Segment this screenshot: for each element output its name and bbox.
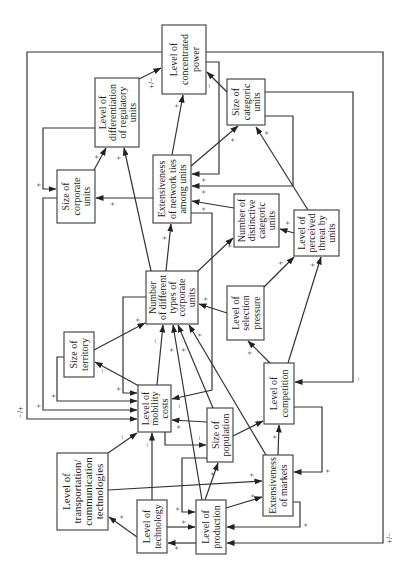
node-label-line: units [266,211,277,231]
node-territory: Size of territory [64,332,94,377]
arrow-line [294,407,322,472]
arrow-line [197,238,233,272]
node-label-line: costs [159,398,170,418]
edge-number-diff-types-to-mobility-costs: + [114,297,147,393]
node-label-line: population [220,414,231,457]
edge-sign: + [276,260,285,265]
node-label-line: Level of [230,296,241,330]
arrow-line [191,126,238,166]
node-label-line: production [211,505,222,548]
arrow-line [192,116,293,186]
node-categoric-units: Size of categoric units [227,79,265,125]
edge-sign: + [108,201,117,206]
node-label-line: pressure [251,296,262,330]
edge-sign: + [301,522,310,527]
node-label-line: of markets [278,464,289,507]
edge-sign: − [151,338,160,343]
arrow-line [139,68,161,79]
node-label-line: units [127,103,138,123]
arrow-line [288,257,321,363]
node-number-diff-types: Number of different types of corporate u… [146,271,198,324]
causal-diagram: −/+ +/− + + + + + − [0,0,406,577]
edge-technology-to-mobility-costs: − [143,433,153,500]
edge-sign: + [172,103,181,108]
edge-network-ties-to-categoric-units: + [191,126,238,166]
node-label-line: Level of [141,509,152,543]
edge-sign: + [248,493,257,498]
edge-sign: + [308,262,317,267]
edge-sign: + [201,296,210,301]
edge-sign: + [160,235,169,240]
node-distinctive-categoric: Number of distinctive categoric units [234,194,279,247]
node-selection-pressure: Level of selection pressure [227,286,264,340]
edge-sign: + [114,386,123,391]
edge-mobility-costs-to-population: − [165,432,206,445]
node-population: Size of population [207,408,233,462]
node-label-line: Level of [168,42,179,76]
edge-mobility-costs-to-territory: − [95,362,139,386]
node-network-ties: Extensiveness of network ties among unit… [153,155,191,223]
edge-territory-to-number-diff-types: + [94,317,145,350]
edge-number-diff-types-to-network-ties: + [160,224,172,271]
edge-diff-regulatory-to-concentrated-power: +/− [139,68,161,89]
edge-competition-to-selection-pressure: + [245,341,271,363]
node-label-line: Level of [200,510,211,544]
node-label-line: of network ties [167,159,178,219]
edge-sign: + [270,434,279,439]
edge-categoric-units-to-concentrated-power: − [205,72,228,92]
arrow-line [173,325,202,500]
edge-selection-pressure-to-perceived-threat: + [264,257,294,287]
edge-sign: + [173,506,182,511]
node-label-line: selection [240,295,251,331]
edge-sign: − [143,442,152,447]
node-corporate-units: Size of corporate units [57,170,95,223]
edge-network-ties-to-concentrated-power: + [172,95,184,155]
edge-sign: + [245,350,254,355]
edge-sign: + [174,424,183,429]
node-label-line: among units [177,164,188,213]
arrow-line [166,224,171,271]
edge-sign: + [199,189,208,194]
edge-mobility-costs-to-number-diff-types: − [151,325,164,385]
node-markets: Extensiveness of markets [263,455,293,516]
edge-sign: + [199,177,208,182]
edge-sign: + [172,545,181,550]
edge-sign: + [34,182,43,187]
edge-technology-to-transportation: + [109,514,137,537]
edge-corporate-units-to-mobility-costs: + [34,198,138,410]
edge-sign: + [133,317,142,322]
edge-sign: + [225,243,234,248]
edge-sign: + [34,403,43,408]
edge-competition-to-markets: + [294,407,332,473]
edge-number-diff-types-to-diff-regulatory: + [114,148,152,271]
edge-sign: +/− [385,532,394,544]
node-mobility-costs: Level of mobility costs [138,385,171,432]
node-label-line: power [190,46,201,72]
node-label-line: Size of [60,182,71,211]
edge-sign: + [167,347,176,352]
edge-selection-pressure-to-number-diff-types: + [199,296,227,313]
edge-population-to-competition: + [233,419,263,436]
edge-sign: − [175,403,184,408]
node-label-line: Size of [68,340,79,369]
edge-production-to-population: + [205,463,218,500]
edge-sign: + [323,468,332,473]
arrow-line [108,481,262,490]
node-production: Level of production [196,500,226,554]
arrow-line [124,148,151,271]
edge-sign: − [118,434,127,439]
arrow-line [157,325,163,385]
node-label-line: Extensiveness [156,161,167,218]
edge-network-ties-to-corporate-units: + [96,198,153,206]
arrow-line [226,497,262,508]
node-label-line: Extensiveness [267,457,278,514]
edge-number-diff-types-to-distinctive-categoric: + [197,238,234,272]
edge-corporate-units-to-diff-regulatory: + [92,148,107,170]
edge-transportation-to-markets: + [108,472,262,490]
arrow-line [199,304,227,313]
edge-sign: +/− [147,77,156,89]
edge-sign: + [253,419,262,424]
node-label-line: categoric [241,83,252,120]
edge-sign: + [195,332,204,337]
node-label-line: units [251,92,262,112]
